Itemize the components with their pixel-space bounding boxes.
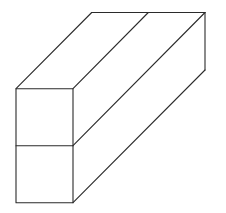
top-left-depth-edge [16,13,92,89]
right-face [73,13,205,203]
prism-drawing [0,0,226,213]
prism-diagram [0,0,226,213]
bottom-right-depth-edge [73,70,205,203]
top-face [16,13,205,89]
top-right-depth-edge [73,13,148,89]
front-face [16,89,73,203]
right-face-divider-edge [73,13,205,146]
